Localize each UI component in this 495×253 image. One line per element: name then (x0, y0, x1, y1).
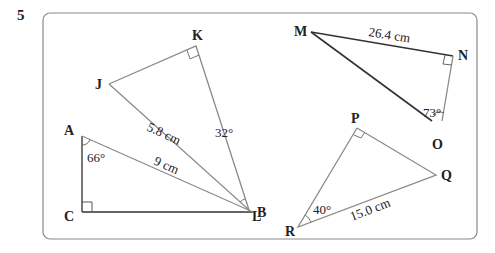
angle-label-a: 66° (87, 150, 105, 165)
vertex-label-q: Q (441, 168, 452, 183)
triangle-pqr: P Q R 15.0 cm 40° (285, 111, 452, 239)
vertex-label-a: A (64, 123, 75, 138)
vertex-label-n: N (458, 48, 468, 63)
triangle-mno: M N O 26.4 cm 73° (294, 24, 468, 152)
right-angle-marker-n (443, 55, 452, 65)
vertex-label-k: K (192, 28, 203, 43)
angle-label-r: 40° (313, 202, 331, 217)
vertex-label-r: R (285, 224, 296, 239)
vertex-label-o: O (432, 137, 443, 152)
vertex-label-c: C (64, 209, 74, 224)
diagram-canvas: K J L 5.8 cm 32° M N O 26.4 cm 73° A C B… (0, 0, 495, 253)
side-label-qr: 15.0 cm (348, 195, 392, 224)
vertex-label-b: B (257, 205, 266, 220)
vertex-label-j: J (95, 77, 102, 92)
right-angle-marker-c (82, 202, 92, 212)
side-label-jl: 5.8 cm (145, 119, 183, 148)
angle-arc-l (240, 199, 245, 202)
right-angle-marker-p (354, 132, 365, 138)
angle-label-l: 32° (215, 125, 233, 140)
vertex-label-p: P (351, 111, 360, 126)
angle-arc-r (305, 215, 311, 222)
vertex-label-m: M (294, 24, 307, 39)
angle-arc-a (82, 140, 90, 145)
angle-label-o: 73° (423, 105, 441, 120)
triangle-jkl: K J L 5.8 cm 32° (95, 28, 261, 224)
